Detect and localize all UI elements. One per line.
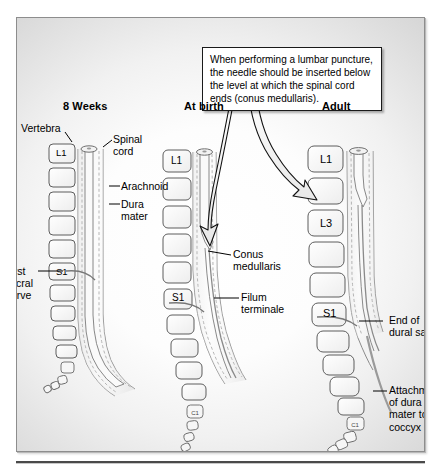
column-title-eight-weeks: 8 Weeks xyxy=(63,100,108,113)
label-vertebra: Vertebra xyxy=(21,122,61,134)
figure-frame: C1 xyxy=(16,17,425,452)
vertebra-label-c2-l1: L1 xyxy=(171,155,182,167)
column-eight-weeks xyxy=(38,132,135,396)
label-first-sacral-nerve: First sacral nerve xyxy=(16,265,33,302)
vertebra-label-c2-s1: S1 xyxy=(172,292,184,304)
vertebra-label-c1-l1: L1 xyxy=(56,147,67,158)
label-dura-mater: Dura mater xyxy=(121,198,148,222)
vertebra-label-c1-s1: S1 xyxy=(56,266,68,277)
vertebra-label-c3-l1: L1 xyxy=(320,153,332,166)
label-filum-terminale: Filum terminale xyxy=(241,291,284,315)
column-adult: C1 xyxy=(308,146,391,452)
vertebra-label-c3-l3: L3 xyxy=(320,217,332,230)
label-conus-medullaris: Conus medullaris xyxy=(233,248,281,272)
column-title-at-birth: At birth xyxy=(184,100,224,113)
label-attachment-dura-coccyx: Attachment of dura mater to coccyx xyxy=(389,384,425,433)
vertebra-label-c3-s1: S1 xyxy=(323,307,336,320)
label-spinal-cord: Spinal cord xyxy=(113,133,142,157)
column-title-adult: Adult xyxy=(322,100,351,113)
svg-text:C1: C1 xyxy=(191,410,199,416)
label-arachnoid: Arachnoid xyxy=(121,180,168,192)
svg-text:C1: C1 xyxy=(351,422,359,428)
label-end-of-dural-sac: End of dural sac xyxy=(389,314,425,338)
lumbar-puncture-callout: When performing a lumbar puncture, the n… xyxy=(202,47,382,111)
bottom-divider-rule xyxy=(16,461,425,464)
